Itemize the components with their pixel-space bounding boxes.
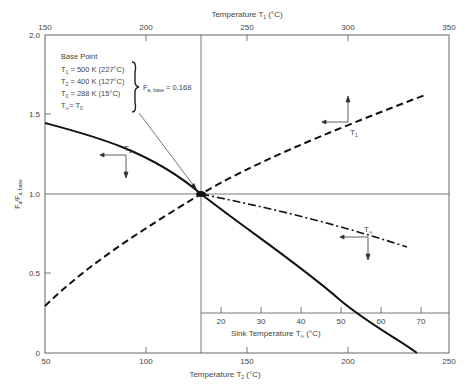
- inset-tick-labels: 20 30 40 50 60 70: [217, 317, 426, 326]
- inset-axis-ticks: [221, 307, 421, 313]
- inset-tick-label: 40: [297, 317, 306, 326]
- bottom-tick-label: 250: [442, 357, 456, 366]
- base-line-t0: T0 = 288 K (15°C): [61, 89, 121, 99]
- curve-t2-solid: [45, 123, 417, 353]
- base-line-t2: T2 = 400 K (127°C): [61, 77, 125, 87]
- inset-axis-title: Sink Temperature T∞ (°C): [231, 329, 321, 339]
- base-line-t1: T1 = 500 K (227°C): [61, 65, 125, 75]
- curve-tinf-dashdot: [201, 194, 407, 247]
- top-tick-label: 250: [240, 23, 254, 32]
- bottom-axis-ticks: [146, 347, 348, 353]
- top-tick-label: 200: [139, 23, 153, 32]
- top-tick-labels: 150 200 250 300 350: [38, 23, 456, 32]
- bottom-tick-label: 150: [240, 357, 254, 366]
- base-point-annotation: Base Point T1 = 500 K (227°C) T2 = 400 K…: [61, 52, 125, 111]
- top-axis-title: Temperature T1 (°C): [211, 10, 283, 20]
- bottom-tick-labels: 50 100 150 200 250: [42, 357, 457, 366]
- inset-tick-label: 30: [257, 317, 266, 326]
- base-line-tinf: T∞= T0: [61, 101, 83, 111]
- left-tick-labels: 2.0 1.5 1.0 0.5 0: [29, 31, 41, 358]
- tinf-direction-arrows: [340, 235, 370, 260]
- base-point-title: Base Point: [61, 52, 98, 61]
- inset-tick-label: 70: [417, 317, 426, 326]
- left-tick-label: 2.0: [29, 31, 41, 40]
- left-axis-ticks: [45, 114, 51, 273]
- left-tick-label: 0.5: [29, 269, 41, 278]
- top-axis-ticks: [146, 35, 348, 41]
- curve-label-t2: T2: [124, 144, 132, 154]
- t1-direction-arrows: [322, 96, 350, 124]
- curve-label-t1: T1: [350, 128, 358, 138]
- t2-direction-arrows: [100, 153, 128, 178]
- annotation-pointer: [139, 113, 197, 190]
- bottom-tick-label: 100: [139, 357, 153, 366]
- bottom-axis-title: Temperature T2 (°C): [189, 370, 261, 380]
- inset-tick-label: 20: [217, 317, 226, 326]
- bottom-tick-label: 200: [341, 357, 355, 366]
- base-point-marker: [196, 191, 206, 197]
- left-tick-label: 1.0: [29, 190, 41, 199]
- inset-tick-label: 60: [377, 317, 386, 326]
- left-tick-label: 0: [36, 349, 41, 358]
- top-tick-label: 350: [442, 23, 456, 32]
- brace-icon: [132, 62, 139, 112]
- y-axis-title: Fa/Fa, base: [14, 179, 23, 209]
- top-tick-label: 300: [341, 23, 355, 32]
- curve-label-tinf: T∞: [364, 225, 373, 235]
- inset-tick-label: 50: [337, 317, 346, 326]
- left-tick-label: 1.5: [29, 110, 41, 119]
- top-tick-label: 150: [38, 23, 52, 32]
- fa-base-label: Fa, base = 0.168: [143, 83, 191, 93]
- bottom-tick-label: 50: [42, 357, 51, 366]
- chart: 20 30 40 50 60 70 Sink Temperature T∞ (°…: [0, 0, 470, 388]
